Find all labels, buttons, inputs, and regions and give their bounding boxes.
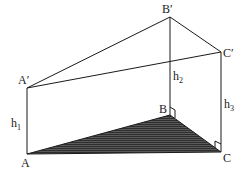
label-h1: h1 xyxy=(11,116,21,132)
edge-aprime-bprime xyxy=(27,17,170,88)
label-c: C xyxy=(223,151,231,165)
prism-diagram: A A′ B B′ C C′ h1 h2 h3 xyxy=(0,0,246,175)
label-bprime: B′ xyxy=(162,2,173,16)
edge-aprime-cprime xyxy=(27,52,221,88)
edge-bprime-cprime xyxy=(170,17,221,52)
base-triangle-abc xyxy=(27,115,221,154)
label-a: A xyxy=(21,156,30,170)
right-angle-marker-c xyxy=(215,141,221,148)
label-h3: h3 xyxy=(224,97,234,113)
label-h2: h2 xyxy=(173,69,183,85)
label-aprime: A′ xyxy=(18,73,30,87)
label-b: B xyxy=(159,102,167,116)
label-cprime: C′ xyxy=(223,46,234,60)
